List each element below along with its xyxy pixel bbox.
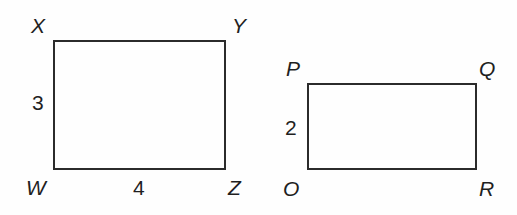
- vertex-label-x: X: [31, 15, 45, 36]
- rectangle-opqr: [307, 83, 477, 170]
- vertex-label-o: O: [283, 178, 299, 199]
- geometry-figure: X Y W Z 3 4 P Q O R 2: [0, 0, 517, 215]
- vertex-label-y: Y: [232, 15, 246, 36]
- vertex-label-z: Z: [228, 177, 241, 198]
- vertex-label-r: R: [479, 178, 494, 199]
- side-label-wxyz-width: 4: [133, 177, 145, 198]
- side-label-opqr-height: 2: [285, 117, 297, 138]
- rectangle-wxyz: [53, 40, 226, 170]
- vertex-label-p: P: [286, 58, 300, 79]
- vertex-label-w: W: [26, 177, 46, 198]
- vertex-label-q: Q: [479, 58, 495, 79]
- side-label-wxyz-height: 3: [32, 92, 44, 113]
